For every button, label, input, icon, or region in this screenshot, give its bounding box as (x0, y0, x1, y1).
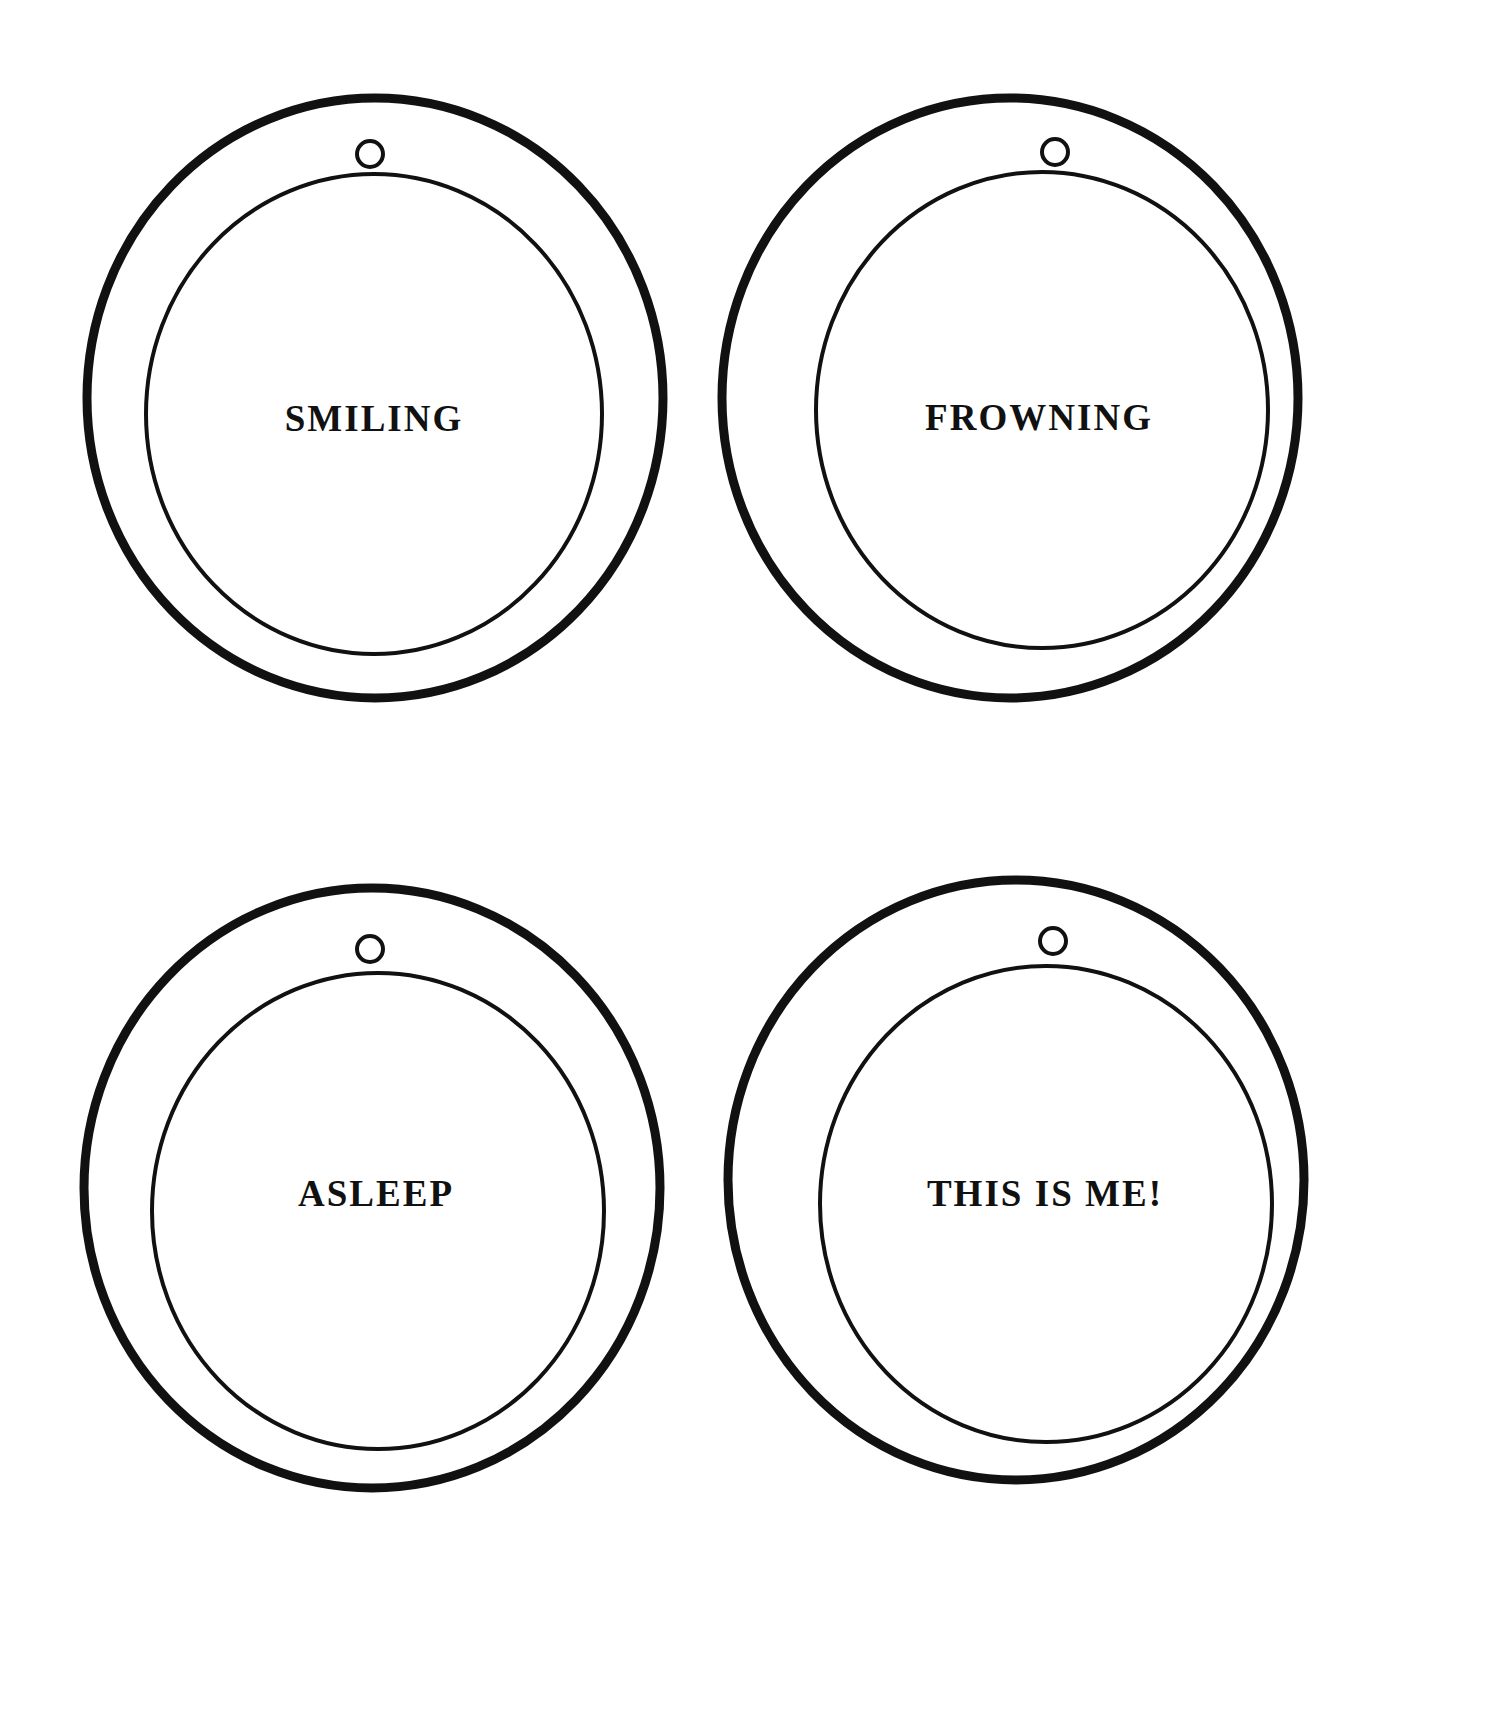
badge-label-frowning: FROWNING (925, 399, 1153, 436)
badge-smiling: SMILING (82, 92, 682, 732)
badge-asleep: ASLEEP (82, 868, 702, 1528)
badge-label-smiling: SMILING (285, 400, 464, 437)
hanging-hole-icon (357, 936, 383, 962)
badge-label-this-is-me: THIS IS ME! (927, 1175, 1163, 1212)
badge-this-is-me: THIS IS ME! (742, 868, 1382, 1528)
hanging-hole-icon (357, 141, 383, 167)
badge-frowning: FROWNING (742, 92, 1362, 732)
worksheet-page: SMILING FROWNING ASLEEP THIS IS ME! (0, 0, 1509, 1731)
hanging-hole-icon (1042, 139, 1068, 165)
hanging-hole-icon (1040, 928, 1066, 954)
badge-label-asleep: ASLEEP (298, 1175, 454, 1212)
